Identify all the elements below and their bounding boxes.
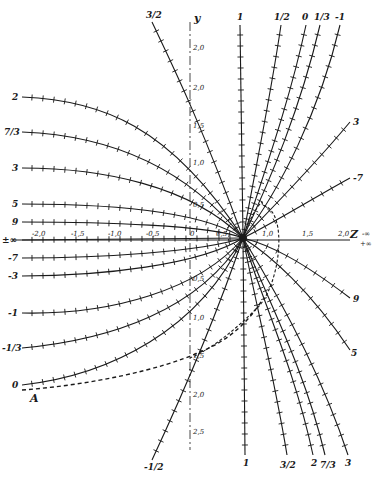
curve-tick <box>43 95 44 101</box>
curve-tick <box>108 173 109 179</box>
curve-tick <box>273 56 279 57</box>
curve-label: -1/2 <box>144 462 164 472</box>
x-tick: 2,0 <box>337 230 350 238</box>
curve-minus-7-right <box>243 178 350 238</box>
bottom-curve-labels: -1/2 1 3/2 2 7/3 3 <box>144 458 351 472</box>
curve-tick <box>54 132 55 138</box>
curve-2-bottom <box>243 238 313 455</box>
left-curve-labels: 2 7/3 3 5 9 ±∞ -7 -3 -1 -1/3 0 <box>2 92 22 390</box>
curve-tick <box>153 250 154 256</box>
curve-label: 5 <box>12 199 18 209</box>
curve-tick <box>152 263 153 269</box>
curve-label: 7/3 <box>4 127 20 137</box>
curve-label: -1 <box>8 308 18 318</box>
curve-tick <box>141 265 142 271</box>
curve-tick <box>31 381 32 387</box>
curve-label: 1/2 <box>274 12 290 22</box>
curve-tick <box>76 308 77 314</box>
curve-tick <box>256 315 262 316</box>
y-tick: 1,5 <box>193 352 205 360</box>
y-tick: 1,0 <box>193 159 205 167</box>
curve-tick <box>219 217 222 222</box>
curve-tick <box>254 164 260 165</box>
curve-tick <box>329 322 334 326</box>
curve-tick <box>261 337 267 338</box>
curve-tick <box>144 131 147 136</box>
curve-tick <box>256 154 262 155</box>
curve-tick <box>120 205 121 211</box>
curve-tick <box>163 261 164 267</box>
curve-tick <box>247 272 253 273</box>
curve-tick <box>262 121 268 122</box>
curve-tick <box>253 243 257 248</box>
y-tick: 1,5 <box>193 122 205 130</box>
curve-tick <box>223 268 228 271</box>
curve-tick <box>252 294 258 295</box>
curve-tick <box>174 212 175 218</box>
curve-1-3-top <box>243 25 320 238</box>
curve-tick <box>270 380 276 381</box>
dashed-curve-a <box>22 300 262 390</box>
curve-tick <box>53 97 54 103</box>
curve-tick <box>279 423 285 424</box>
curve-label: -7 <box>353 173 364 183</box>
curve-tick <box>277 34 283 35</box>
curve-tick <box>86 169 87 175</box>
curve-minus-7 <box>22 238 243 258</box>
curve-tick <box>176 299 179 304</box>
curve-tick <box>141 207 142 213</box>
curve-tick <box>65 167 66 173</box>
curve-tick <box>268 89 274 90</box>
curve-tick <box>119 301 120 307</box>
curve-label: 3/2 <box>280 460 296 470</box>
curve-tick <box>109 269 110 275</box>
curve-tick <box>163 210 164 216</box>
curve-label: -3 <box>8 271 18 281</box>
x-tick: 1,5 <box>302 230 314 238</box>
curve-tick <box>119 175 120 181</box>
curve-tick <box>207 243 208 249</box>
curve-tick <box>42 379 43 385</box>
curve-tick <box>42 343 43 349</box>
x-tick: -1,5 <box>71 230 85 238</box>
curve-tick <box>266 99 272 100</box>
curve-tick <box>153 336 156 341</box>
curve-tick <box>221 209 226 213</box>
curve-tick <box>86 137 87 143</box>
curve-tick <box>64 339 65 345</box>
curve-tick <box>207 227 208 233</box>
curve-tick <box>263 347 269 348</box>
curve-tick <box>98 270 99 276</box>
curve-tick <box>218 241 219 247</box>
family-of-curves-diagram: y Z -∞ +∞ -2,0 -1,5 -1,0 -0,5 0 0,5 1,0 … <box>0 0 382 477</box>
curve-label: 3/2 <box>146 10 162 20</box>
curve-tick <box>185 246 186 252</box>
y-tick: 2,0 <box>192 391 205 399</box>
curve-tick <box>53 377 54 383</box>
curve-tick <box>282 445 288 446</box>
curve-tick <box>130 266 131 272</box>
curve-tick <box>268 369 274 370</box>
curve-tick <box>75 337 76 343</box>
curve-tick <box>53 341 54 347</box>
curve-tick <box>174 247 175 253</box>
curve-label: 2 <box>310 458 317 468</box>
curve-label: 2 <box>11 92 18 102</box>
top-curve-labels: 3/2 1 1/2 0 1/3 -1 <box>146 10 345 22</box>
y-tick: 2,5 <box>192 428 205 436</box>
x-tick: 0,5 <box>216 230 228 238</box>
curve-label: 3 <box>12 163 18 173</box>
curve-label: 1/3 <box>314 12 330 22</box>
curve-1-2-top <box>243 25 281 238</box>
curve-tick <box>216 277 221 281</box>
curve-tick <box>108 303 109 309</box>
curve-tick <box>76 168 77 174</box>
curve-label: 1 <box>237 12 243 22</box>
curve-tick <box>64 133 65 139</box>
curve-tick <box>270 78 276 79</box>
curve-tick <box>210 210 213 215</box>
curve-tick <box>277 412 283 413</box>
curve-minus-1-2-bottom <box>152 238 243 460</box>
curve-tick <box>264 110 270 111</box>
curve-tick <box>275 45 281 46</box>
